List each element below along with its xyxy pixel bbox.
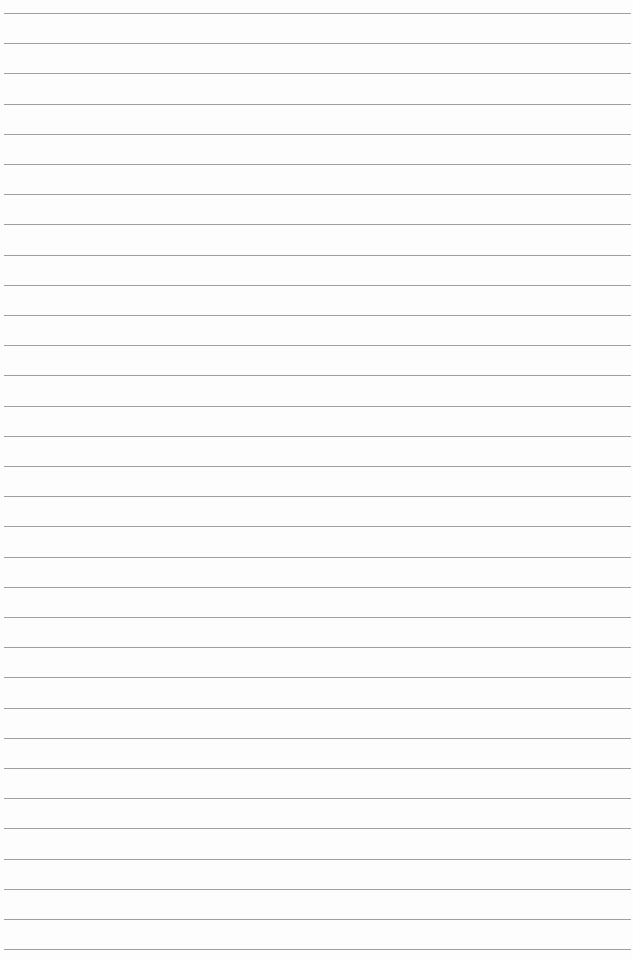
ruled-line xyxy=(4,587,631,588)
ruled-line xyxy=(4,73,631,74)
ruled-line xyxy=(4,617,631,618)
ruled-line xyxy=(4,949,631,950)
ruled-line xyxy=(4,677,631,678)
ruled-line xyxy=(4,406,631,407)
lined-paper-page xyxy=(0,0,633,959)
ruled-line xyxy=(4,708,631,709)
ruled-line xyxy=(4,889,631,890)
ruled-line xyxy=(4,43,631,44)
ruled-line xyxy=(4,526,631,527)
ruled-line xyxy=(4,496,631,497)
ruled-line xyxy=(4,104,631,105)
ruled-line xyxy=(4,859,631,860)
ruled-line xyxy=(4,194,631,195)
ruled-line xyxy=(4,255,631,256)
ruled-line xyxy=(4,798,631,799)
ruled-line xyxy=(4,375,631,376)
ruled-line xyxy=(4,224,631,225)
ruled-line xyxy=(4,13,631,14)
ruled-line xyxy=(4,768,631,769)
ruled-line xyxy=(4,828,631,829)
ruled-line xyxy=(4,285,631,286)
ruled-line xyxy=(4,134,631,135)
ruled-line xyxy=(4,436,631,437)
ruled-line xyxy=(4,315,631,316)
ruled-line xyxy=(4,345,631,346)
ruled-line xyxy=(4,164,631,165)
ruled-line xyxy=(4,738,631,739)
ruled-line xyxy=(4,466,631,467)
ruled-line xyxy=(4,557,631,558)
ruled-line xyxy=(4,919,631,920)
ruled-line xyxy=(4,647,631,648)
